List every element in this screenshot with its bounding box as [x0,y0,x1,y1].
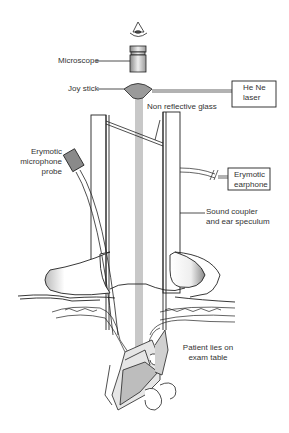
laser-beam [135,98,143,370]
earphone-label-line2: earphone [234,180,268,190]
joystick-label: Joy stick [68,84,99,94]
sound-coupler-label: Sound coupler and ear speculum [206,207,270,227]
laser-label-line1: He Ne [243,83,266,93]
outer-ear [18,252,235,302]
coupler-label-line1: Sound coupler [206,207,270,217]
non-reflective-glass [106,121,163,146]
patient-label-line1: Patient lies on [178,343,238,353]
he-ne-laser-box: He Ne laser [243,83,266,103]
laser-label-line2: laser [243,93,266,103]
eye-icon [130,22,147,37]
mic-label-line3: probe [20,167,62,177]
mic-label-line1: Erymotic [20,147,62,157]
microphone-probe-label: Erymotic microphone probe [20,147,62,177]
patient-label-line2: exam table [178,353,238,363]
coupler-label-line2: and ear speculum [206,217,270,227]
glass-label: Non reflective glass [147,102,217,112]
microscope-icon [130,46,146,72]
joystick-icon [124,84,152,100]
erymotic-earphone-box: Erymotic earphone [234,170,268,190]
glass-leader [155,120,160,140]
patient-label: Patient lies on exam table [178,343,238,363]
microscope-label: Microscope [58,56,99,66]
mic-label-line2: microphone [20,157,62,167]
earphone-label-line1: Erymotic [234,170,268,180]
